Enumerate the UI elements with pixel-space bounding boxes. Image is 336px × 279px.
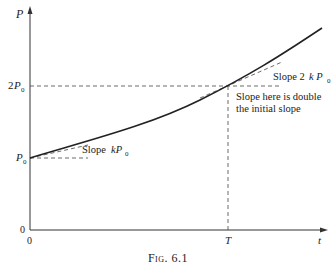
chart-svg: P t 0 0 P 0 2 P 0 T Slope kP 0 Slope 2 k… [0, 0, 336, 279]
svg-text:kP: kP [111, 144, 123, 155]
svg-text:0: 0 [23, 158, 27, 166]
origin-x-label: 0 [27, 235, 32, 246]
svg-text:0: 0 [21, 86, 25, 94]
t-tick-label: T [225, 234, 232, 246]
svg-text:k P: k P [309, 71, 323, 82]
caption-number: . 6.1 [165, 251, 189, 265]
svg-text:P: P [15, 151, 23, 163]
note-line-2: the initial slope [236, 103, 301, 114]
slope-initial-annotation: Slope kP 0 [82, 144, 129, 158]
p0-tick-label: P 0 [15, 151, 27, 166]
two-p0-tick-label: 2 P 0 [8, 79, 25, 94]
svg-text:Slope: Slope [82, 144, 106, 155]
caption-prefix: Fig [148, 251, 165, 265]
svg-text:0: 0 [125, 150, 129, 158]
note-line-1: Slope here is double [236, 91, 322, 102]
svg-text:P: P [13, 79, 21, 91]
slope-double-annotation: Slope 2 k P 0 [273, 71, 331, 85]
svg-text:0: 0 [327, 77, 331, 85]
x-axis-arrow-icon [320, 228, 328, 233]
y-axis-arrow-icon [28, 6, 33, 14]
svg-text:Slope 2: Slope 2 [273, 71, 305, 82]
svg-text:2: 2 [8, 79, 14, 91]
figure-caption: Fig. 6.1 [0, 251, 336, 266]
x-axis-label: t [318, 234, 322, 246]
origin-y-label: 0 [20, 224, 25, 235]
y-axis-label: P [15, 7, 24, 21]
